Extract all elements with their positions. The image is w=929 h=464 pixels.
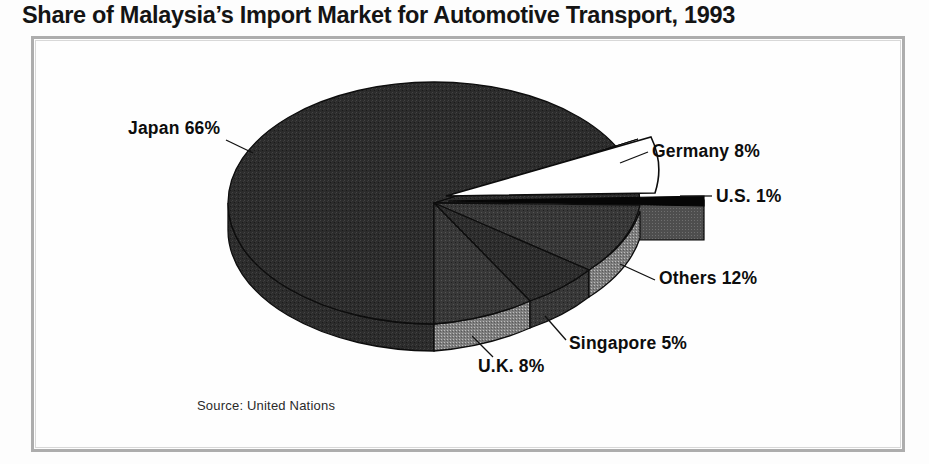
leader-japan (226, 140, 253, 153)
source-note: Source: United Nations (197, 398, 335, 413)
pie-chart-graphic (0, 0, 929, 464)
slice-label-uk: U.K. 8% (478, 356, 545, 377)
slice-label-others: Others 12% (659, 268, 757, 289)
leader-others (620, 264, 655, 280)
slice-label-us: U.S. 1% (716, 186, 782, 207)
slice-label-germany: Germany 8% (652, 141, 760, 162)
slice-label-japan: Japan 66% (128, 118, 220, 139)
chart-figure: Share of Malaysia’s Import Market for Au… (0, 0, 929, 464)
leader-singapore (545, 316, 566, 340)
pie-top-faces (228, 82, 704, 324)
slice-label-singapore: Singapore 5% (569, 333, 687, 354)
